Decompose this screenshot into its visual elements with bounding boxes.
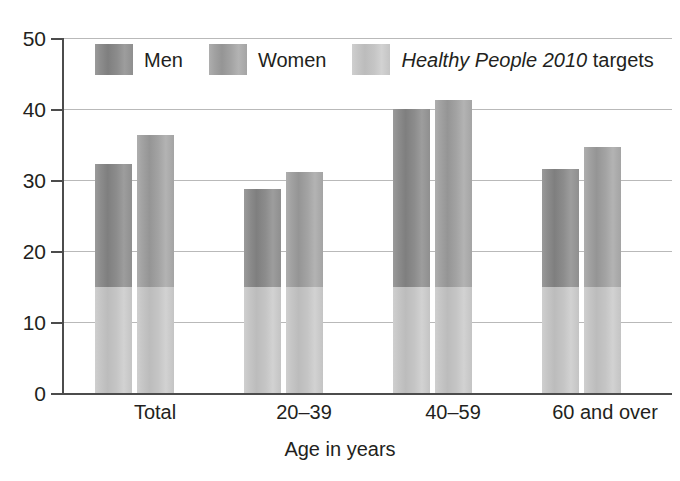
legend-entry-men: Men [95, 44, 209, 75]
legend-label-women: Women [258, 48, 327, 72]
x-tick-label-40-59: 40–59 [393, 400, 513, 424]
legend-entry-target: Healthy People 2010 targets [352, 44, 679, 75]
bar-group-total [95, 38, 215, 393]
y-tick-40 [51, 109, 62, 111]
bar-group-40-59 [393, 38, 513, 393]
bar-segment-women [584, 147, 621, 287]
x-tick-label-20-39: 20–39 [244, 400, 364, 424]
x-tick-label-60-and-over: 60 and over [530, 400, 680, 424]
bar-segment-men [393, 109, 430, 287]
plot-area [62, 38, 672, 393]
y-tick-30 [51, 180, 62, 182]
bar-segment-women [286, 172, 323, 286]
y-tick-label-20: 20 [23, 241, 46, 262]
y-tick-label-0: 0 [34, 383, 46, 404]
bar-segment-men [542, 169, 579, 286]
legend-entry-women: Women [209, 44, 353, 75]
bar-segment-target [95, 287, 132, 394]
x-tick-label-total: Total [95, 400, 215, 424]
bar-group-60-and-over [542, 38, 662, 393]
legend-swatch-men-icon [95, 44, 133, 75]
bar-40-59-men [393, 109, 430, 393]
bar-segment-women [137, 135, 174, 287]
legend-label-men: Men [144, 48, 183, 72]
chart-legend: Men Women Healthy People 2010 targets [95, 44, 680, 75]
bar-segment-men [244, 189, 281, 286]
y-tick-20 [51, 251, 62, 253]
y-axis-line [62, 38, 64, 395]
y-tick-0 [51, 393, 62, 395]
legend-label-target-plain: targets [587, 49, 654, 71]
y-tick-label-10: 10 [23, 312, 46, 333]
y-tick-label-30: 30 [23, 170, 46, 191]
legend-label-target-italic: Healthy People 2010 [401, 49, 587, 71]
bar-segment-target [286, 287, 323, 394]
bar-20-39-women [286, 172, 323, 393]
bar-segment-target [393, 287, 430, 394]
bar-chart: 50 40 30 20 10 0 Total 20–39 40–59 60 an… [0, 0, 680, 481]
bar-40-59-women [435, 100, 472, 393]
legend-swatch-women-icon [209, 44, 247, 75]
bar-segment-target [435, 287, 472, 394]
y-tick-50 [51, 38, 62, 40]
bar-segment-target [542, 287, 579, 394]
bar-segment-target [244, 287, 281, 394]
bar-segment-women [435, 100, 472, 287]
x-axis-title: Age in years [0, 437, 680, 461]
bar-total-men [95, 164, 132, 393]
legend-label-target: Healthy People 2010 targets [401, 48, 653, 72]
bar-group-20-39 [244, 38, 364, 393]
bar-segment-men [95, 164, 132, 286]
bar-20-39-men [244, 189, 281, 393]
bar-segment-target [137, 287, 174, 394]
bar-total-women [137, 135, 174, 393]
legend-swatch-target-icon [352, 44, 390, 75]
bar-segment-target [584, 287, 621, 394]
x-axis-line [51, 393, 672, 395]
y-tick-label-50: 50 [23, 28, 46, 49]
bar-60-and-over-men [542, 169, 579, 393]
bar-60-and-over-women [584, 147, 621, 393]
y-tick-10 [51, 322, 62, 324]
y-tick-label-40: 40 [23, 99, 46, 120]
